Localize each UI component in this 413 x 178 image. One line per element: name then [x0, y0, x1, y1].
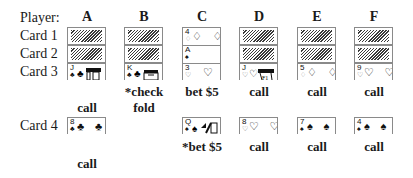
heart-icon: ♡ [357, 72, 363, 79]
club-icon: ♣ [70, 72, 75, 79]
face-down-card-icon [354, 45, 393, 63]
face-down-card-icon [239, 45, 278, 63]
spade-icon: ♠ [185, 54, 189, 61]
action-b-3a: *check [114, 84, 174, 99]
svg-text:♣: ♣ [77, 68, 84, 79]
action-f-3: call [344, 84, 404, 99]
spade-icon: ♠ [185, 126, 189, 133]
card-a-3: J ♣ ♣ [67, 63, 106, 80]
diamond-pips-icon: ♢ ♢ [192, 30, 221, 42]
face-card-jack-icon: ♡F1 [249, 66, 275, 80]
face-down-card-icon [354, 27, 393, 45]
svg-text:♡: ♡ [249, 68, 258, 79]
spade-pips-icon: ♠ ♠ [364, 120, 390, 132]
action-f-4: call [344, 139, 404, 154]
card-e-4: 7 ♠ ♠ ♠ [297, 117, 336, 134]
svg-text:♠: ♠ [192, 123, 198, 134]
card-c-4: Q ♠ ♠ [182, 117, 221, 134]
heart-pips-icon: ♡ [203, 66, 217, 78]
heart-pips-icon: ♡ ♡ [249, 120, 278, 132]
club-pips-icon: ♣ ♣ [77, 120, 106, 132]
action-e-4: call [287, 139, 347, 154]
action-d-4: call [229, 139, 289, 154]
face-down-card-icon [67, 27, 106, 45]
card-f-3: 9 ♡ ♡ ♡ [354, 63, 393, 80]
face-down-card-icon [124, 45, 163, 63]
club-icon: ♣ [127, 72, 132, 79]
card-c-1: 4 ♢ ♢ ♢ [182, 27, 221, 45]
face-down-card-icon [297, 27, 336, 45]
action-b-3b: fold [114, 100, 174, 115]
diamond-icon: ♢ [185, 36, 191, 43]
action-d-3: call [229, 84, 289, 99]
club-icon: ♣ [70, 126, 75, 133]
card-f-4: 4 ♠ ♠ ♠ [354, 117, 393, 134]
card-d-4: 8 ♡ ♡ ♡ [239, 117, 278, 134]
spade-pips-icon: ♠ ♠ [307, 120, 333, 132]
face-down-card-icon [239, 27, 278, 45]
card3-label: Card 3 [20, 64, 58, 80]
card-a-4: 8 ♣ ♣ ♣ [67, 117, 106, 134]
action-a-3: call [57, 100, 117, 115]
diamond-icon: ♢ [300, 72, 306, 79]
spade-icon: ♠ [357, 126, 361, 133]
heart-icon: ♡ [242, 126, 248, 133]
card1-label: Card 1 [20, 28, 58, 44]
player-b-header: B [124, 9, 164, 25]
diamond-pips-icon: ♢ ♢ [307, 66, 336, 78]
player-c-header: C [182, 9, 222, 25]
card-c-3: 3 ♡ ♡ [182, 63, 221, 80]
heart-icon: ♡ [185, 72, 191, 79]
spade-icon: ♠ [300, 126, 304, 133]
player-a-header: A [67, 9, 107, 25]
card2-label: Card 2 [20, 46, 58, 62]
action-a-4: call [57, 156, 117, 171]
heart-pips-icon: ♡ ♡ [364, 66, 393, 78]
face-card-king-icon: ♣ [134, 66, 160, 80]
heart-icon: ♡ [242, 72, 248, 79]
player-f-header: F [354, 9, 394, 25]
face-down-card-icon [67, 45, 106, 63]
svg-text:♣: ♣ [134, 68, 141, 79]
card4-label: Card 4 [20, 118, 58, 134]
action-c-3: bet $5 [172, 84, 232, 99]
svg-text:F1: F1 [262, 75, 268, 80]
card-b-3: K ♣ ♣ [124, 63, 163, 80]
action-e-3: call [287, 84, 347, 99]
player-d-header: D [239, 9, 279, 25]
card-e-3: 5 ♢ ♢ ♢ [297, 63, 336, 80]
player-label: Player: [20, 10, 60, 26]
card-c-2: A ♠ [182, 45, 221, 63]
card-d-3: J ♡ ♡F1 [239, 63, 278, 80]
face-down-card-icon [124, 27, 163, 45]
action-c-4: *bet $5 [172, 139, 232, 154]
face-card-jack-icon: ♣ [77, 66, 103, 80]
face-card-queen-icon: ♠ [192, 120, 218, 134]
player-e-header: E [297, 9, 337, 25]
face-down-card-icon [297, 45, 336, 63]
